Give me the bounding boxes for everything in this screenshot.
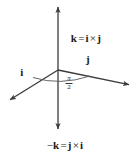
angle-pi-over-two-label: π 2: [66, 75, 73, 91]
label-k-equals-i-cross-j: k=i×j: [71, 33, 101, 44]
label-minus-k-equals-j-cross-i: −k=j×i: [47, 140, 84, 151]
fraction-numerator-pi: π: [66, 75, 73, 83]
k-vector-symbol: k: [53, 139, 59, 151]
equals-sign: =: [77, 32, 85, 44]
i-axis-label: i: [20, 67, 23, 78]
i-vector-symbol: i: [80, 139, 83, 151]
vector-cross-product-diagram: k=i×j −k=j×i i j π 2: [0, 0, 140, 162]
j-axis-label: j: [86, 54, 90, 65]
fraction-denominator-two: 2: [66, 84, 73, 92]
j-vector-symbol: j: [97, 32, 101, 44]
i-axis-line: [10, 70, 58, 100]
equals-sign: =: [59, 139, 67, 151]
